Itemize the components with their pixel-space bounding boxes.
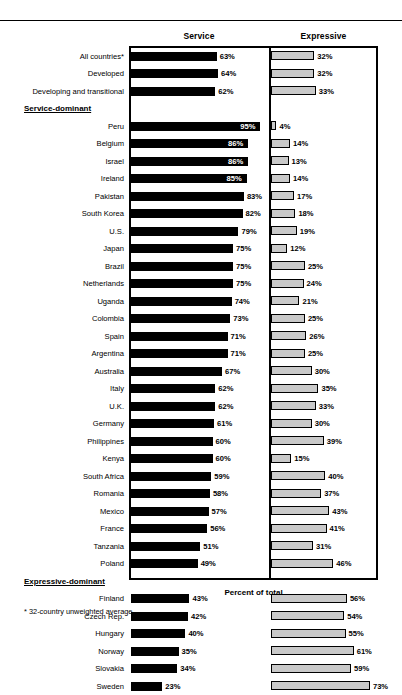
service-value: 67% (225, 367, 240, 376)
expressive-bar (271, 174, 290, 183)
expressive-value: 41% (330, 524, 345, 533)
expressive-value: 33% (319, 402, 334, 411)
service-track: 62% (131, 398, 267, 416)
service-track: 75% (131, 258, 267, 276)
expressive-value: 17% (297, 192, 312, 201)
row-label: Peru (0, 118, 124, 136)
expressive-bar (271, 436, 324, 445)
expressive-bar (271, 331, 306, 340)
row-label: Belgium (0, 135, 124, 153)
expressive-value: 13% (292, 157, 307, 166)
service-bar (131, 437, 213, 446)
service-value: 74% (235, 297, 250, 306)
row-label: Brazil (0, 258, 124, 276)
expressive-track: 25% (271, 345, 376, 363)
expressive-value: 61% (357, 647, 372, 656)
service-value: 63% (220, 52, 235, 61)
chart-row: France56%41% (0, 520, 402, 538)
service-track: 61% (131, 415, 267, 433)
service-track: 75% (131, 240, 267, 258)
service-bar (131, 279, 233, 288)
service-track: 95% (131, 118, 267, 136)
expressive-track: 43% (271, 503, 376, 521)
service-value: 61% (217, 419, 232, 428)
row-label: South Africa (0, 468, 124, 486)
row-label: Norway (0, 643, 124, 661)
expressive-bar (271, 366, 312, 375)
expressive-value: 54% (347, 612, 362, 621)
row-label: U.S. (0, 223, 124, 241)
chart-row: Sweden23%73% (0, 678, 402, 695)
service-value: 86% (228, 157, 243, 166)
service-track: 56% (131, 520, 267, 538)
row-label: Romania (0, 485, 124, 503)
chart-row: Hungary40%55% (0, 625, 402, 643)
row-label: France (0, 520, 124, 538)
expressive-bar (271, 454, 291, 463)
service-value: 73% (233, 314, 248, 323)
chart-row: All countries*63%32% (0, 48, 402, 66)
service-value: 58% (213, 489, 228, 498)
service-track: 74% (131, 293, 267, 311)
service-bar (131, 664, 177, 673)
expressive-value: 55% (349, 629, 364, 638)
expressive-track: 41% (271, 520, 376, 538)
expressive-bar (271, 156, 289, 165)
expressive-bar (271, 471, 325, 480)
expressive-value: 73% (373, 682, 388, 691)
service-value: 75% (236, 279, 251, 288)
expressive-bar (271, 261, 305, 270)
expressive-value: 25% (308, 314, 323, 323)
service-track: 49% (131, 555, 267, 573)
chart-row: Italy62%35% (0, 380, 402, 398)
expressive-bar (271, 419, 312, 428)
service-bar (131, 209, 243, 218)
service-value: 34% (180, 664, 195, 673)
expressive-value: 59% (354, 664, 369, 673)
row-label: Slovakia (0, 660, 124, 678)
chart-row: Developed64%32% (0, 65, 402, 83)
service-value: 82% (246, 209, 261, 218)
chart-row: Japan75%12% (0, 240, 402, 258)
expressive-value: 30% (315, 419, 330, 428)
chart-row: Poland49%46% (0, 555, 402, 573)
section-header: Expressive-dominant (24, 573, 105, 591)
service-value: 85% (227, 174, 242, 183)
service-value: 56% (210, 524, 225, 533)
expressive-bar (271, 611, 344, 620)
service-value: 60% (216, 437, 231, 446)
service-track: 40% (131, 625, 267, 643)
row-label: Kenya (0, 450, 124, 468)
expressive-value: 35% (321, 384, 336, 393)
service-value: 95% (240, 122, 255, 131)
row-label: Spain (0, 328, 124, 346)
expressive-bar (271, 489, 321, 498)
row-label: Sweden (0, 678, 124, 695)
column-header-service: Service (129, 31, 269, 41)
expressive-track: 30% (271, 363, 376, 381)
expressive-track: 32% (271, 48, 376, 66)
expressive-bar (271, 401, 316, 410)
expressive-track: 21% (271, 293, 376, 311)
row-label: Hungary (0, 625, 124, 643)
footnote: * 32-country unweighted average. (24, 607, 135, 616)
expressive-bar (271, 279, 304, 288)
chart-row: Developing and transitional62%33% (0, 83, 402, 101)
row-label: Finland (0, 590, 124, 608)
service-bar (131, 629, 185, 638)
expressive-track: 19% (271, 223, 376, 241)
expressive-value: 25% (308, 262, 323, 271)
expressive-bar (271, 191, 294, 200)
expressive-value: 19% (300, 227, 315, 236)
chart-row: Uganda74%21% (0, 293, 402, 311)
service-bar (131, 314, 230, 323)
expressive-track: 55% (271, 625, 376, 643)
chart-row: Mexico57%43% (0, 503, 402, 521)
expressive-track: 4% (271, 118, 376, 136)
expressive-track: 13% (271, 153, 376, 171)
service-track: 85% (131, 170, 267, 188)
chart-row: Norway35%61% (0, 643, 402, 661)
expressive-bar (271, 69, 314, 78)
chart-row: Australia67%30% (0, 363, 402, 381)
service-track: 75% (131, 275, 267, 293)
